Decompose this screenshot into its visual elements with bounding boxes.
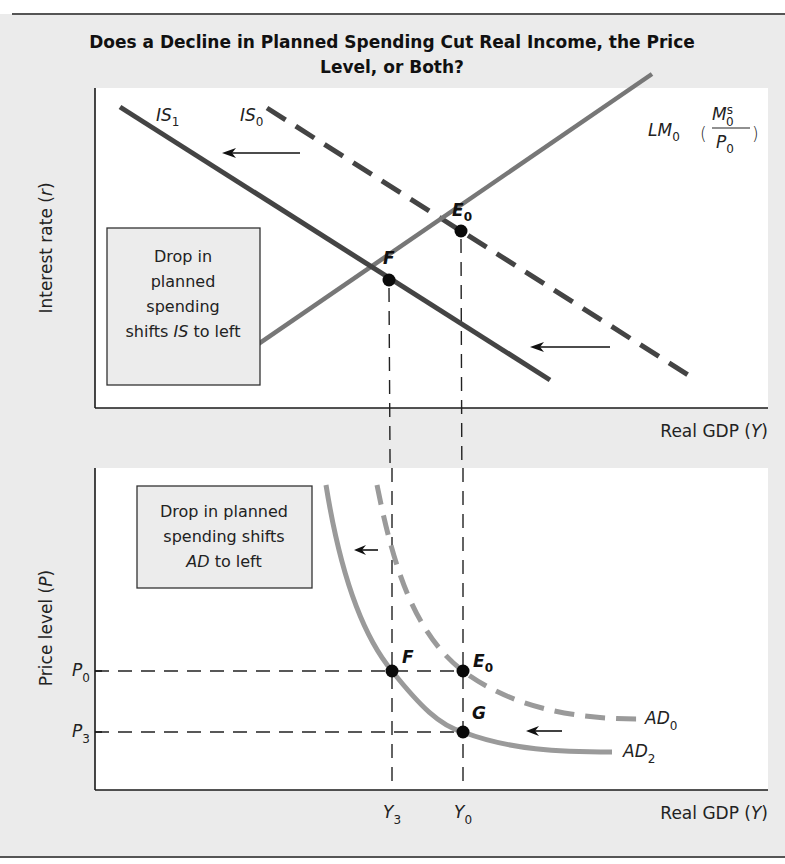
is-lm-y-axis-label: Interest rate (r) (36, 182, 56, 313)
figure-title-line1: Does a Decline in Planned Spending Cut R… (89, 32, 695, 52)
ad-shift-annotation: Drop in planned spending shifts AD to le… (137, 486, 312, 588)
point-f-bottom-label: F (402, 647, 414, 667)
svg-text:Drop in planned: Drop in planned (160, 502, 288, 521)
point-g-bottom-label: G (472, 703, 486, 723)
svg-text:AD to left: AD to left (185, 552, 261, 571)
point-e0-top (455, 225, 468, 238)
svg-text:spending shifts: spending shifts (163, 527, 284, 546)
point-f-bottom (386, 665, 399, 678)
is-lm-x-axis-label: Real GDP (Y) (660, 421, 768, 441)
svg-text:planned: planned (151, 272, 216, 291)
point-e0-bottom (457, 665, 470, 678)
svg-text:(: ( (700, 124, 707, 144)
ad-panel: Price level (P) Real GDP (Y) P0 P3 Y3 Y0… (36, 468, 768, 827)
point-f-top-label: F (383, 248, 395, 268)
figure-title-line2: Level, or Both? (320, 57, 464, 77)
svg-text:shifts IS to left: shifts IS to left (126, 322, 241, 341)
svg-text:Drop in: Drop in (154, 247, 212, 266)
point-f-top (383, 274, 396, 287)
svg-text:spending: spending (146, 297, 219, 316)
point-g-bottom (457, 726, 470, 739)
is-shift-annotation: Drop in planned spending shifts IS to le… (107, 228, 260, 385)
is-lm-ad-diagram: Does a Decline in Planned Spending Cut R… (0, 0, 785, 864)
svg-text:): ) (752, 124, 759, 144)
ad-x-axis-label: Real GDP (Y) (660, 803, 768, 823)
ad-y-axis-label: Price level (P) (36, 570, 56, 686)
